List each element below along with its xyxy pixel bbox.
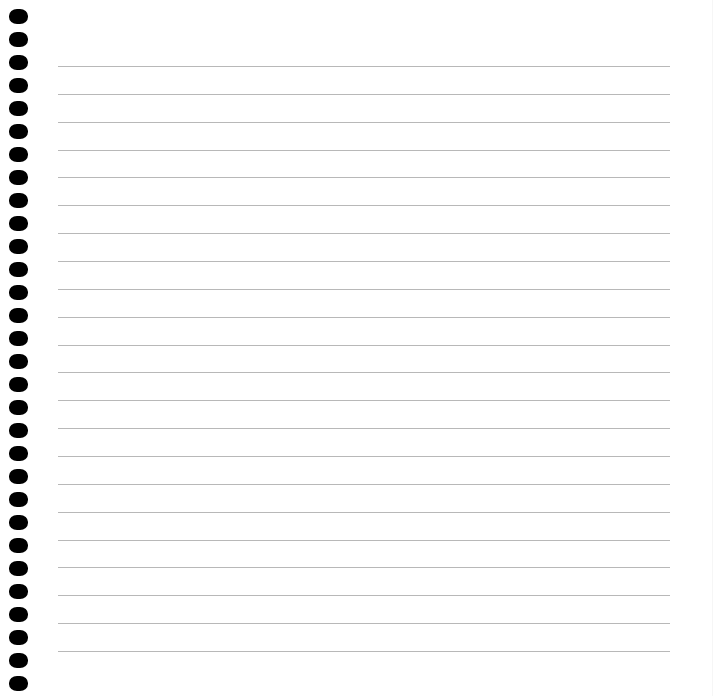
ruled-line (58, 150, 670, 151)
ruled-line (58, 651, 670, 652)
ruled-line (58, 456, 670, 457)
ruled-line (58, 233, 670, 234)
ruled-line (58, 66, 670, 67)
ruled-line (58, 428, 670, 429)
ruled-line (58, 567, 670, 568)
ruled-line (58, 372, 670, 373)
ruled-line (58, 540, 670, 541)
notebook-page (0, 0, 716, 696)
ruled-line (58, 205, 670, 206)
ruled-line (58, 317, 670, 318)
ruled-line (58, 400, 670, 401)
ruled-line (58, 512, 670, 513)
ruled-lines (0, 0, 716, 696)
ruled-line (58, 122, 670, 123)
ruled-line (58, 261, 670, 262)
ruled-line (58, 484, 670, 485)
ruled-line (58, 345, 670, 346)
ruled-line (58, 94, 670, 95)
ruled-line (58, 595, 670, 596)
ruled-line (58, 289, 670, 290)
ruled-line (58, 177, 670, 178)
ruled-line (58, 623, 670, 624)
